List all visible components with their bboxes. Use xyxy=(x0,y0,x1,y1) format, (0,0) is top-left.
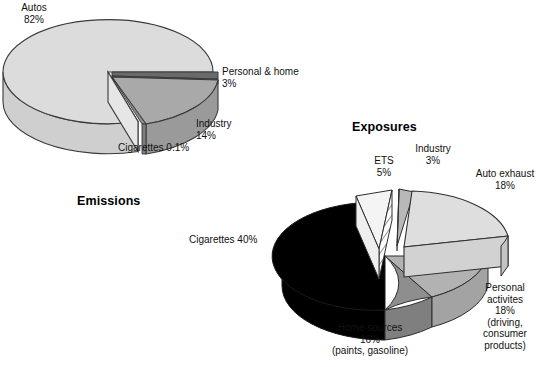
label-emissions-personal-home: Personal & home 3% xyxy=(222,66,338,89)
label-exposures-ets: ETS 5% xyxy=(364,155,404,178)
label-emissions-cigarettes: Cigarettes 0.1% xyxy=(118,142,248,154)
figure-canvas: Emissions Exposures Autos 82% Personal &… xyxy=(0,0,544,367)
emissions-chart-title: Emissions xyxy=(77,194,140,208)
label-exposures-personal-activites: Personal activites 18% (driving, consume… xyxy=(470,282,540,351)
label-emissions-autos: Autos 82% xyxy=(6,2,62,25)
label-exposures-cigarettes: Cigarettes 40% xyxy=(189,234,299,246)
label-exposures-home-sources: Home sources 16% (paints, gasoline) xyxy=(298,322,442,357)
label-exposures-industry: Industry 3% xyxy=(404,143,462,166)
emissions-pie xyxy=(3,20,218,154)
exposures-chart-title: Exposures xyxy=(352,120,417,134)
label-emissions-industry: Industry 14% xyxy=(196,118,268,141)
label-exposures-auto-exhaust: Auto exhaust 18% xyxy=(466,168,544,191)
pie-charts-svg xyxy=(0,0,544,367)
